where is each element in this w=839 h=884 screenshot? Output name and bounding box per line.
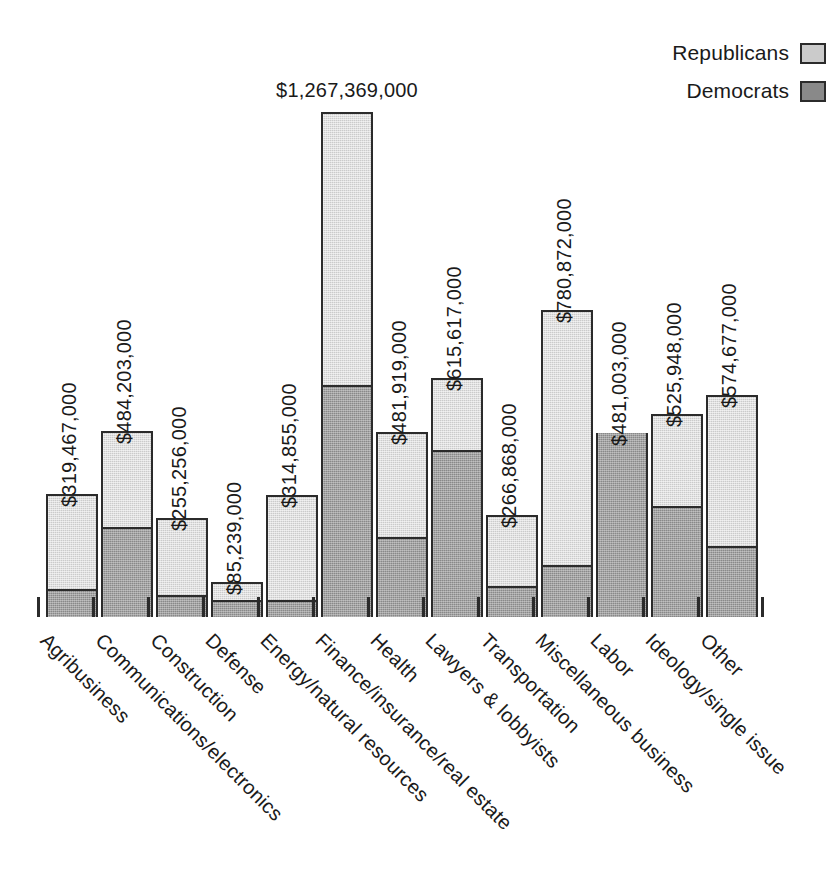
x-axis-tick	[147, 597, 150, 617]
bar-miscellaneous-business[interactable]	[541, 310, 593, 617]
value-label: $484,203,000	[113, 319, 136, 444]
bar-segment-democrats[interactable]	[323, 385, 371, 617]
bar-lawyers-lobbyists[interactable]	[431, 378, 483, 617]
value-label: $255,256,000	[168, 406, 191, 531]
bar-segment-democrats[interactable]	[708, 546, 756, 617]
bar-segment-democrats[interactable]	[48, 589, 96, 617]
value-label: $615,617,000	[443, 266, 466, 391]
bar-other[interactable]	[706, 395, 758, 617]
value-label: $1,267,369,000	[276, 79, 418, 102]
value-label: $319,467,000	[58, 382, 81, 507]
bar-segment-democrats[interactable]	[103, 527, 151, 617]
value-label: $780,872,000	[553, 198, 576, 323]
x-axis-tick	[202, 597, 205, 617]
x-axis-tick	[422, 597, 425, 617]
bar-health[interactable]	[376, 432, 428, 617]
bar-construction[interactable]	[156, 518, 208, 617]
x-axis-tick	[697, 597, 700, 617]
x-axis-tick	[587, 597, 590, 617]
x-axis-tick	[312, 597, 315, 617]
x-axis-tick	[257, 597, 260, 617]
bar-segment-republicans[interactable]	[653, 416, 701, 508]
x-axis-tick	[642, 597, 645, 617]
value-label: $481,919,000	[388, 320, 411, 445]
bar-segment-democrats[interactable]	[268, 600, 316, 617]
bar-segment-republicans[interactable]	[543, 312, 591, 567]
x-axis-tick	[367, 597, 370, 617]
value-label: $266,868,000	[498, 403, 521, 528]
x-axis-tick	[532, 597, 535, 617]
bar-energy-natural-resources[interactable]	[266, 495, 318, 617]
bar-segment-republicans[interactable]	[103, 433, 151, 529]
bar-segment-democrats[interactable]	[543, 565, 591, 617]
x-axis-tick	[37, 597, 40, 617]
x-axis-label-10: Labor	[586, 629, 639, 682]
bar-segment-democrats[interactable]	[433, 450, 481, 617]
bar-segment-democrats[interactable]	[158, 595, 206, 617]
value-label: $525,948,000	[663, 302, 686, 427]
plot-area: $319,467,000Agribusiness$484,203,000Comm…	[0, 0, 839, 884]
chart-container: Republicans Democrats $319,467,000Agribu…	[0, 0, 839, 884]
bar-segment-republicans[interactable]	[48, 496, 96, 591]
x-axis-tick	[477, 597, 480, 617]
bar-segment-republicans[interactable]	[708, 397, 756, 548]
bar-segment-republicans[interactable]	[323, 114, 371, 387]
bar-segment-democrats[interactable]	[598, 433, 646, 617]
bar-transportation[interactable]	[486, 515, 538, 617]
bar-finance-insurance-real-estate[interactable]	[321, 112, 373, 617]
bar-segment-republicans[interactable]	[268, 497, 316, 602]
value-label: $574,677,000	[718, 283, 741, 408]
bar-segment-republicans[interactable]	[158, 520, 206, 597]
bar-segment-democrats[interactable]	[488, 586, 536, 617]
x-axis-label-12: Other	[696, 629, 748, 681]
bar-segment-democrats[interactable]	[378, 537, 426, 617]
bar-communications-electronics[interactable]	[101, 431, 153, 617]
bar-segment-democrats[interactable]	[653, 506, 701, 617]
x-axis-tick	[92, 597, 95, 617]
value-label: $314,855,000	[278, 383, 301, 508]
bar-segment-republicans[interactable]	[378, 434, 426, 539]
x-axis-tick-end	[761, 597, 764, 617]
bar-ideology-single-issue[interactable]	[651, 414, 703, 617]
bar-segment-democrats[interactable]	[213, 600, 261, 617]
value-label: $85,239,000	[223, 482, 246, 595]
bar-labor[interactable]	[596, 433, 648, 617]
bar-agribusiness[interactable]	[46, 494, 98, 617]
value-label: $481,003,000	[608, 321, 631, 446]
